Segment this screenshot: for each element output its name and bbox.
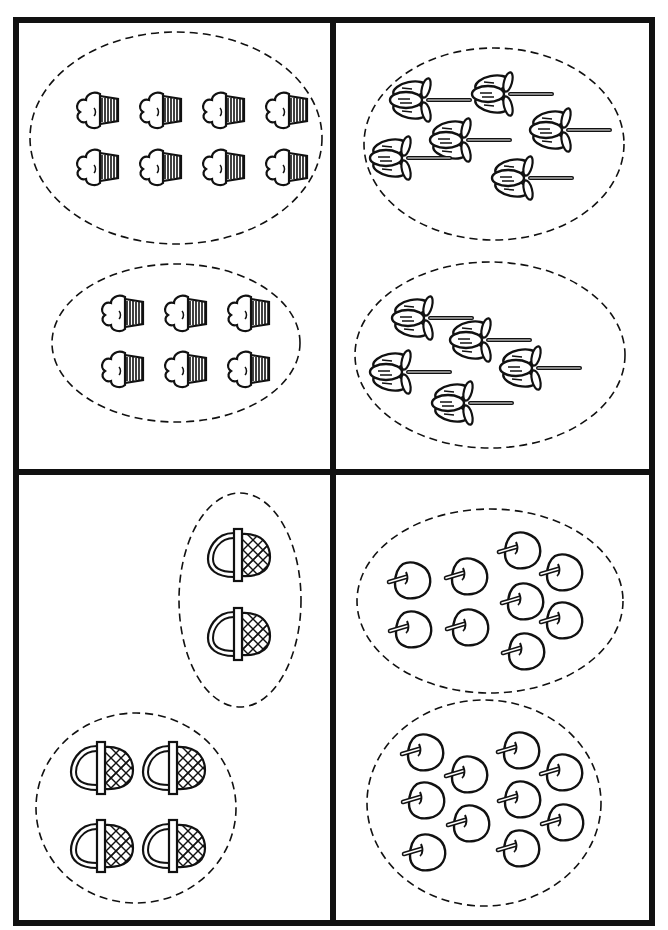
basket-icon bbox=[208, 525, 298, 605]
dashed-group-outline bbox=[52, 264, 300, 422]
apple-icon bbox=[447, 609, 488, 645]
flower-icon bbox=[432, 380, 512, 425]
apple-icon bbox=[499, 781, 540, 817]
cupcake-icon bbox=[228, 296, 269, 331]
basket-group-1 bbox=[179, 493, 301, 707]
apple-icon bbox=[448, 805, 489, 841]
apple-icon bbox=[446, 558, 487, 594]
apple-icon bbox=[503, 633, 544, 669]
dashed-group-outline bbox=[179, 493, 301, 707]
dashed-group-outline bbox=[30, 32, 322, 244]
flower-group-2 bbox=[355, 262, 625, 448]
quadrant-bottom-right bbox=[357, 509, 623, 906]
basket-group-2 bbox=[36, 713, 236, 903]
apple-icon bbox=[446, 756, 487, 792]
basket-icon bbox=[71, 816, 161, 896]
cupcake-icon bbox=[266, 93, 307, 128]
basket-icon bbox=[208, 604, 298, 684]
cupcake-icon bbox=[228, 352, 269, 387]
cupcake-group-2 bbox=[52, 264, 300, 422]
quadrant-top-left bbox=[30, 32, 322, 422]
flower-icon bbox=[430, 117, 510, 162]
cupcake-icon bbox=[165, 296, 206, 331]
apple-icon bbox=[498, 830, 539, 866]
apple-icon bbox=[390, 611, 431, 647]
quadrant-bottom-left bbox=[36, 493, 301, 903]
cupcake-icon bbox=[140, 93, 181, 128]
apple-icon bbox=[541, 554, 582, 590]
apple-icon bbox=[542, 804, 583, 840]
flower-icon bbox=[530, 107, 610, 152]
cupcake-icon bbox=[165, 352, 206, 387]
cupcake-icon bbox=[203, 93, 244, 128]
basket-icon bbox=[143, 816, 233, 896]
dashed-group-outline bbox=[357, 509, 623, 693]
apple-group-1 bbox=[357, 509, 623, 693]
flower-icon bbox=[370, 349, 450, 394]
quadrant-top-right bbox=[355, 48, 625, 448]
cupcake-icon bbox=[77, 93, 118, 128]
flower-icon bbox=[492, 155, 572, 200]
flower-icon bbox=[472, 71, 552, 116]
cupcake-icon bbox=[266, 150, 307, 185]
apple-icon bbox=[502, 583, 543, 619]
counting-worksheet: cupcake flower basket apple bbox=[0, 0, 668, 930]
apple-icon bbox=[402, 734, 443, 770]
apple-icon bbox=[541, 602, 582, 638]
apple-icon bbox=[498, 732, 539, 768]
cupcake-icon bbox=[102, 352, 143, 387]
cupcake-icon bbox=[77, 150, 118, 185]
cupcake-icon bbox=[203, 150, 244, 185]
apple-icon bbox=[389, 562, 430, 598]
flower-icon bbox=[390, 77, 470, 122]
basket-icon bbox=[143, 738, 233, 818]
flower-group-1 bbox=[364, 48, 624, 240]
apple-icon bbox=[541, 754, 582, 790]
apple-icon bbox=[499, 532, 540, 568]
worksheet-artwork bbox=[0, 0, 668, 930]
cupcake-icon bbox=[140, 150, 181, 185]
cupcake-icon bbox=[102, 296, 143, 331]
apple-icon bbox=[404, 834, 445, 870]
basket-icon bbox=[71, 738, 161, 818]
flower-icon bbox=[500, 345, 580, 390]
dashed-group-outline bbox=[36, 713, 236, 903]
apple-icon bbox=[403, 782, 444, 818]
apple-group-2 bbox=[367, 700, 601, 906]
cupcake-group-1 bbox=[30, 32, 322, 244]
